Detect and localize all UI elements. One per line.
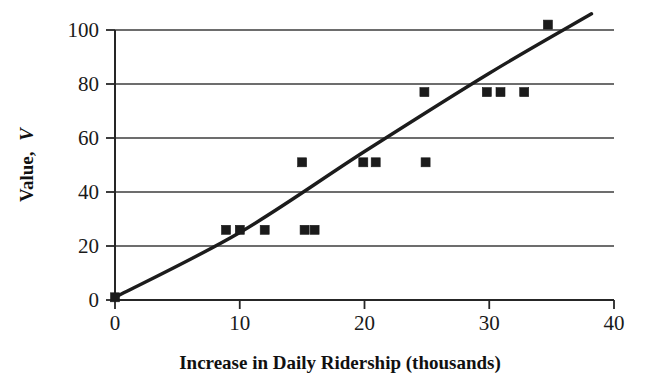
data-point-group [111, 20, 553, 302]
y-tick-label: 0 [89, 288, 100, 312]
y-tick-group [106, 30, 115, 300]
y-tick-label: 20 [78, 234, 99, 258]
scatter-plot: 010203040 020406080100 Increase in Daily… [0, 0, 656, 385]
y-tick-label: 100 [68, 18, 100, 42]
y-tick-label: 80 [78, 72, 99, 96]
data-point [520, 88, 529, 97]
x-tick-group [115, 300, 614, 309]
gridline-group [115, 30, 614, 246]
data-point [371, 158, 380, 167]
x-tick-label: 0 [110, 311, 121, 335]
trend-line [115, 14, 592, 298]
x-tick-label: 30 [479, 311, 500, 335]
data-point [420, 88, 429, 97]
data-point [421, 158, 430, 167]
data-point [359, 158, 368, 167]
data-point [300, 225, 309, 234]
data-point [482, 88, 491, 97]
data-point [222, 225, 231, 234]
data-point [235, 225, 244, 234]
y-axis-title-variable: V [16, 127, 37, 141]
x-axis-title: Increase in Daily Ridership (thousands) [179, 352, 501, 374]
data-point [543, 20, 552, 29]
chart-figure: 010203040 020406080100 Increase in Daily… [0, 0, 656, 385]
y-axis-title-text: Value, [16, 151, 37, 202]
data-point [260, 225, 269, 234]
x-tick-label: 10 [229, 311, 250, 335]
data-point [111, 293, 120, 302]
data-point [298, 158, 307, 167]
data-point [496, 88, 505, 97]
x-tick-label: 20 [354, 311, 375, 335]
y-tick-label-group: 020406080100 [68, 18, 100, 312]
y-tick-label: 40 [78, 180, 99, 204]
x-tick-label: 40 [604, 311, 625, 335]
y-tick-label: 60 [78, 126, 99, 150]
y-axis-title: Value, V [16, 127, 37, 202]
x-tick-label-group: 010203040 [110, 311, 625, 335]
data-point [310, 225, 319, 234]
